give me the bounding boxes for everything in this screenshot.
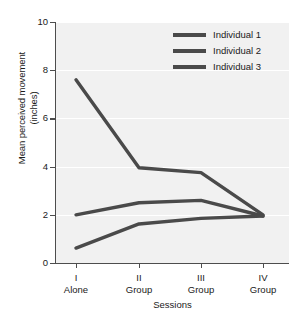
y-tick-mark-4 <box>50 167 55 168</box>
x-tick-label-2-condition: Group <box>109 284 169 296</box>
x-axis-title: Sessions <box>56 299 289 310</box>
legend-item-individual-3: Individual 3 <box>173 59 291 75</box>
x-tick-label-4-condition: Group <box>233 284 293 296</box>
x-tick-label-4-roman: IV <box>233 272 293 284</box>
x-tick-label-1-condition: Alone <box>46 284 106 296</box>
series-line-individual-1 <box>76 80 263 215</box>
x-tick-label-1: I Alone <box>46 272 106 296</box>
x-tick-mark-3 <box>201 263 202 268</box>
y-tick-mark-10 <box>50 22 55 23</box>
legend-swatch-individual-2 <box>173 49 206 52</box>
y-tick-label-8: 8 <box>4 65 48 75</box>
y-tick-label-2: 2 <box>4 210 48 220</box>
legend-label-individual-2: Individual 2 <box>213 46 261 56</box>
series-line-individual-2 <box>76 200 263 216</box>
series-line-individual-3 <box>76 216 263 248</box>
legend-label-individual-1: Individual 1 <box>213 30 261 40</box>
x-tick-label-2-roman: II <box>109 272 169 284</box>
y-tick-mark-8 <box>50 70 55 71</box>
x-tick-mark-1 <box>76 263 77 268</box>
x-tick-label-3-roman: III <box>171 272 231 284</box>
x-tick-label-3-condition: Group <box>171 284 231 296</box>
legend-item-individual-1: Individual 1 <box>173 27 291 43</box>
y-tick-mark-2 <box>50 215 55 216</box>
legend-label-individual-3: Individual 3 <box>213 62 261 72</box>
chart-legend: Individual 1 Individual 2 Individual 3 <box>173 27 291 75</box>
y-tick-label-4: 4 <box>4 162 48 172</box>
y-tick-label-10: 10 <box>4 17 48 27</box>
legend-item-individual-2: Individual 2 <box>173 43 291 59</box>
x-tick-mark-2 <box>139 263 140 268</box>
y-tick-label-0: 0 <box>4 258 48 268</box>
y-tick-mark-6 <box>50 118 55 119</box>
x-tick-mark-4 <box>263 263 264 268</box>
x-tick-label-2: II Group <box>109 272 169 296</box>
y-tick-label-6: 6 <box>4 113 48 123</box>
legend-swatch-individual-3 <box>173 65 206 68</box>
x-tick-label-4: IV Group <box>233 272 293 296</box>
x-tick-label-1-roman: I <box>46 272 106 284</box>
y-tick-mark-0 <box>50 263 55 264</box>
x-tick-label-3: III Group <box>171 272 231 296</box>
chart-figure: Mean perceived movement (inches) 10 8 6 … <box>0 0 293 314</box>
legend-swatch-individual-1 <box>173 33 206 36</box>
